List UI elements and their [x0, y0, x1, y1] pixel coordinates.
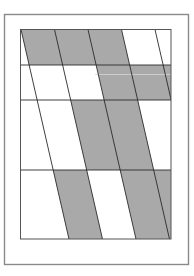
parallelogram-lattice-diagram: [0, 0, 194, 276]
shaded-band: [21, 30, 130, 66]
